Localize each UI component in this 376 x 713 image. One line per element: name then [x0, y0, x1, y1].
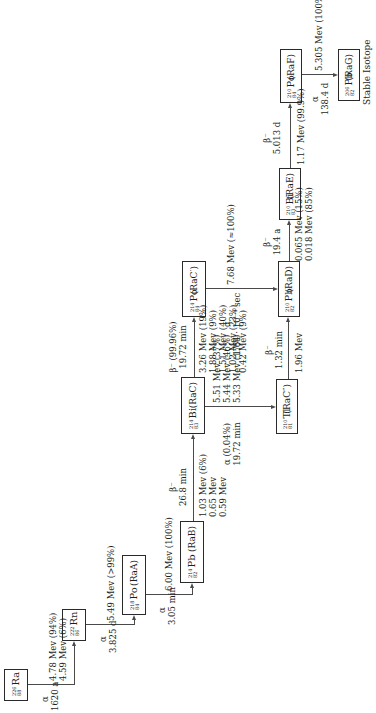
arrow-head — [72, 641, 76, 646]
arrow-head — [286, 317, 290, 322]
connector — [193, 439, 194, 521]
transition-mode-label: α (0.04%)19.72 min — [222, 409, 242, 479]
connector — [302, 74, 333, 75]
transition-energy-label: 7.68 Mev (≈100%) — [226, 204, 236, 285]
node-pb210: 21082Pb (RaD) — [278, 261, 300, 317]
transition-mode-label: β⁻ (99.96%)19.72 min — [168, 319, 188, 375]
transition-mode-label: α1.64 · 10⁻⁴ sec — [222, 291, 242, 357]
node-po218: 21884Po (RaA) — [122, 555, 146, 615]
isotope-symbol: 22688Ra — [11, 672, 22, 696]
isotope-alias: (RaD) — [284, 266, 294, 293]
node-ra226: 22688Ra — [4, 669, 28, 701]
transition-energy-label: 5.305 Mev (100%) — [314, 0, 324, 71]
transition-mode-label: α1620 a — [40, 687, 60, 711]
arrow-head — [288, 103, 292, 108]
node-bi214: 21483Bi (RaC) — [181, 377, 205, 434]
arrow-head — [271, 406, 276, 410]
isotope-symbol: 21482Pb — [187, 554, 198, 578]
transition-mode-label: β⁻5.013 d — [262, 111, 282, 165]
isotope-alias: (RaG) — [344, 54, 354, 81]
arrow-head — [191, 434, 195, 439]
isotope-alias: (RaC′) — [189, 266, 199, 294]
isotope-alias: (RaC″) — [282, 384, 292, 414]
transition-energy-label: 4.78 Mev (94%)4.59 Mev (6%) — [48, 613, 68, 681]
connector — [289, 225, 290, 261]
connector — [206, 288, 273, 289]
isotope-alias: (RaC) — [188, 382, 198, 408]
isotope-symbol: 22286Rn — [69, 611, 80, 636]
transition-mode-label: β⁻19.4 a — [262, 225, 282, 259]
arrow-head — [192, 317, 196, 322]
transition-energy-label: 5.49 Mev (>99%) — [106, 545, 116, 621]
arrow-head — [190, 583, 194, 588]
transition-mode-label: β⁻1.32 min — [264, 325, 284, 375]
transition-mode-label: α3.05 min — [157, 595, 177, 625]
isotope-alias: (RaB) — [187, 526, 197, 552]
arrow-head — [287, 220, 291, 225]
transition-mode-label: α3.825 d — [98, 625, 118, 653]
arrow-head — [273, 288, 278, 292]
isotope-symbol: 21483Bi — [188, 408, 199, 429]
transition-energy-label: 1.96 Mev — [294, 333, 304, 373]
node-tl210: 21081Tl (RaC″) — [276, 379, 298, 434]
transition-energy-label: 0.065 Mev (15%)0.018 Mev (85%) — [294, 187, 314, 261]
isotope-alias: (RaA) — [129, 560, 139, 586]
isotope-alias: (RaF) — [286, 54, 296, 80]
arrow-head — [132, 615, 136, 620]
node-pb206: 20682Pb (RaG) — [338, 49, 360, 101]
transition-mode-label: α138.4 d — [310, 79, 330, 119]
connector — [194, 322, 195, 377]
connector — [192, 587, 193, 595]
connector — [290, 108, 291, 168]
transition-energy-label: 1.17 Mev (99.9%) — [296, 89, 306, 166]
stable-isotope-label: Stable Isotope — [362, 39, 372, 105]
connector — [74, 645, 75, 685]
isotope-symbol: 21884Po — [129, 587, 140, 610]
node-pb214: 21482Pb (RaB) — [180, 521, 204, 583]
connector — [288, 322, 289, 379]
arrow-head — [333, 74, 338, 78]
transition-mode-label: β⁻26.8 min — [168, 457, 188, 517]
decay-chain-diagram: 22688Ra 22286Rn 21884Po (RaA) 21482Pb (R… — [0, 0, 376, 713]
connector — [205, 406, 271, 407]
transition-energy-label: 6.00 Mev (100%) — [164, 517, 174, 591]
